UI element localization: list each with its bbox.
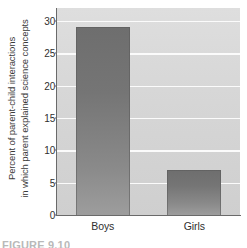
y-axis-label-line-2: in which parent explained science concep… [18, 19, 31, 198]
y-axis-tick-label: 10 [33, 145, 55, 156]
y-axis-label-text: Percent of parent-child interactions in … [6, 19, 31, 198]
y-axis-label: Percent of parent-child interactions in … [0, 0, 36, 216]
y-axis-tick-label: 25 [33, 48, 55, 59]
gridline [57, 21, 240, 23]
plot-area [57, 8, 240, 215]
bar-outline [76, 27, 130, 215]
x-axis-category-label: Boys [91, 220, 114, 232]
y-axis-tick-label: 20 [33, 80, 55, 91]
bar-boys [76, 27, 130, 215]
y-axis-tick-labels: 051015202530 [33, 0, 55, 248]
bar-chart-figure: Percent of parent-child interactions in … [0, 0, 247, 248]
y-axis-tick-label: 5 [33, 177, 55, 188]
figure-caption: FIGURE 9.10 [2, 239, 70, 248]
y-axis-tick-label: 0 [33, 210, 55, 221]
y-axis-label-line-1: Percent of parent-child interactions [6, 19, 19, 198]
bar-outline [167, 170, 221, 215]
y-axis-tick-label: 30 [33, 15, 55, 26]
bar-girls [167, 170, 221, 215]
y-axis-tick-label: 15 [33, 112, 55, 123]
x-axis-category-label: Girls [184, 220, 205, 232]
x-axis-line [56, 215, 241, 216]
